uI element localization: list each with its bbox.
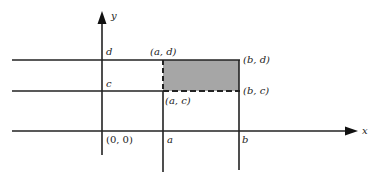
tick-label-c: c (106, 78, 112, 89)
coordinate-diagram: y x (0, 0) d c a b (a, d) (b, d) (a, c) … (0, 0, 370, 184)
tick-label-a: a (167, 134, 173, 145)
origin-label: (0, 0) (106, 134, 133, 145)
y-axis-label: y (110, 10, 117, 21)
y-axis-arrow-icon (98, 11, 107, 24)
corner-label-a-c: (a, c) (165, 95, 191, 106)
tick-label-b: b (242, 134, 248, 145)
x-axis-label: x (362, 125, 368, 136)
shaded-region (163, 60, 239, 91)
corner-label-b-c: (b, c) (243, 85, 269, 96)
corner-label-a-d: (a, d) (150, 46, 177, 57)
diagram-canvas: y x (0, 0) d c a b (a, d) (b, d) (a, c) … (0, 0, 370, 184)
tick-label-d: d (106, 46, 112, 57)
x-axis-arrow-icon (345, 127, 358, 136)
corner-label-b-d: (b, d) (243, 54, 270, 65)
